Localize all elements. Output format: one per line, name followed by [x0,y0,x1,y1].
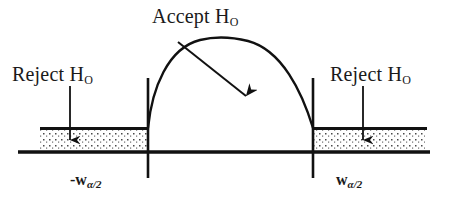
accept-label-text: Accept H [152,5,230,27]
reject-left-label: Reject HO [12,64,93,86]
rejection-region-left [40,129,148,152]
accept-label-subscript: O [230,15,239,29]
reject-right-label-text: Reject H [330,63,402,85]
reject-left-label-text: Reject H [12,63,84,85]
axis-right-text: w [336,171,348,188]
axis-right-subscript: α/2 [348,178,363,190]
arrow-accept [178,42,246,96]
hypothesis-test-diagram [0,0,451,203]
axis-left-subscript: α/2 [87,178,102,190]
axis-left-text: -w [70,171,87,188]
figure-canvas: Accept HO Reject HO Reject HO -wα/2 wα/2 [0,0,451,203]
rejection-region-right [313,129,427,152]
reject-right-label-subscript: O [402,73,411,87]
reject-right-label: Reject HO [330,64,411,86]
axis-label-negative-critical-value: -wα/2 [70,172,102,190]
accept-region-label: Accept HO [152,6,238,28]
axis-label-positive-critical-value: wα/2 [336,172,362,190]
reject-left-label-subscript: O [84,73,93,87]
